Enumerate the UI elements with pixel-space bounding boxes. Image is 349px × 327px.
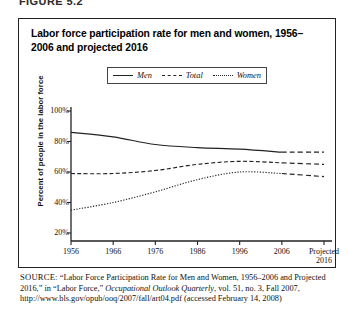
- figure-number-label: FIGURE 5.2: [19, 0, 83, 7]
- series-line-men: [71, 132, 282, 152]
- source-prefix: SOURCE:: [20, 272, 58, 282]
- series-line-total: [71, 161, 282, 173]
- series-projection-women: [282, 174, 324, 177]
- series-line-women: [71, 172, 282, 210]
- chart-plot-area: Percent of people in the labor force 100…: [19, 19, 337, 269]
- series-projection-total: [282, 163, 324, 165]
- figure-page: FIGURE 5.2 Labor force participation rat…: [0, 0, 349, 327]
- source-note: SOURCE: “Labor Force Participation Rate …: [20, 272, 336, 305]
- figure-border-box: Labor force participation rate for men a…: [18, 18, 336, 268]
- source-journal-title: Occupational Outlook Quarterly: [105, 284, 214, 293]
- line-chart-svg: [19, 19, 337, 269]
